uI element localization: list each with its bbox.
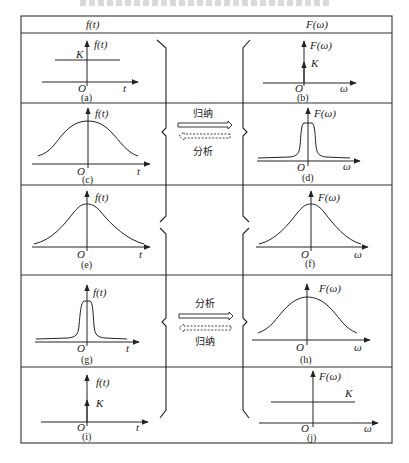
level-label: K [310,57,319,69]
fourier-duality-table: f(t) F(ω) 归纳 分析 分析 归纳 f(t) K O t (a) F(ω… [0,0,409,463]
caption: (f) [305,258,315,270]
plot-e [32,191,150,251]
caption: (b) [297,92,309,104]
plot-f [256,191,368,251]
x-axis-label: t [126,342,130,354]
caption: (c) [82,174,93,186]
x-axis-label: ω [354,248,362,260]
x-axis-label: ω [354,341,362,353]
caption: (d) [302,172,314,184]
plot-h [252,284,370,345]
caption: (e) [81,259,92,271]
x-axis-label: ω [340,82,348,94]
caption: (i) [82,431,91,443]
plot-a [42,41,138,86]
label-analysis: 分析 [195,297,215,309]
origin-label: O [296,341,304,353]
x-axis-label: t [123,82,127,94]
x-axis-label: ω [364,422,372,434]
axis-label: f(t) [95,107,109,120]
axis-label: F(ω) [309,39,332,52]
plot-g [35,285,139,346]
x-axis-label: ω [343,160,351,172]
header-left: f(t) [86,18,100,31]
label-induction: 归纳 [195,335,215,347]
axis-label: F(ω) [317,191,340,204]
axis-label: f(t) [94,38,108,51]
origin-label: O [77,342,85,354]
axis-label: f(t) [93,286,107,299]
caption: (h) [300,354,312,366]
plot-i [41,375,148,426]
label-analysis: 分析 [193,145,213,157]
solid-arrow-right [179,312,233,320]
label-induction: 归纳 [193,107,213,119]
axis-label: F(ω) [318,282,341,295]
right-brace [243,40,250,418]
plot-c [32,108,150,168]
dashed-arrow-left [179,324,231,332]
transition-row-4: 分析 归纳 [179,297,233,347]
x-axis-label: t [136,421,140,433]
level-label: K [344,387,353,399]
left-brace [157,40,166,418]
dashed-arrow-left [179,132,230,140]
axis-label: F(ω) [313,107,336,120]
caption: (j) [307,432,316,444]
transition-row-2: 归纳 分析 [178,107,232,157]
plot-d [257,108,360,166]
caption: (g) [81,354,93,366]
x-axis-label: t [137,165,141,177]
axis-label: f(t) [95,191,109,204]
caption: (a) [81,92,92,104]
axis-label: f(t) [96,376,110,389]
header-right: F(ω) [305,18,328,31]
level-label: K [75,48,84,60]
axis-label: F(ω) [318,370,341,383]
x-axis-label: t [139,248,143,260]
solid-arrow-right [178,121,232,129]
level-label: K [95,397,104,409]
